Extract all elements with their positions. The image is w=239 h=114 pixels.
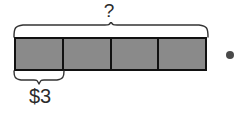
bar-segment-2 bbox=[64, 39, 112, 69]
top-brace bbox=[13, 22, 209, 38]
total-label-question-mark: ? bbox=[96, 0, 122, 22]
bar-model bbox=[14, 37, 207, 71]
bar-segment-1 bbox=[16, 39, 64, 69]
part-label-dollar-amount: $3 bbox=[14, 84, 66, 108]
tape-diagram: ? $3 bbox=[0, 0, 239, 114]
bar-segment-4 bbox=[159, 39, 205, 69]
bullet-dot-icon bbox=[226, 51, 234, 59]
bar-segment-3 bbox=[112, 39, 160, 69]
